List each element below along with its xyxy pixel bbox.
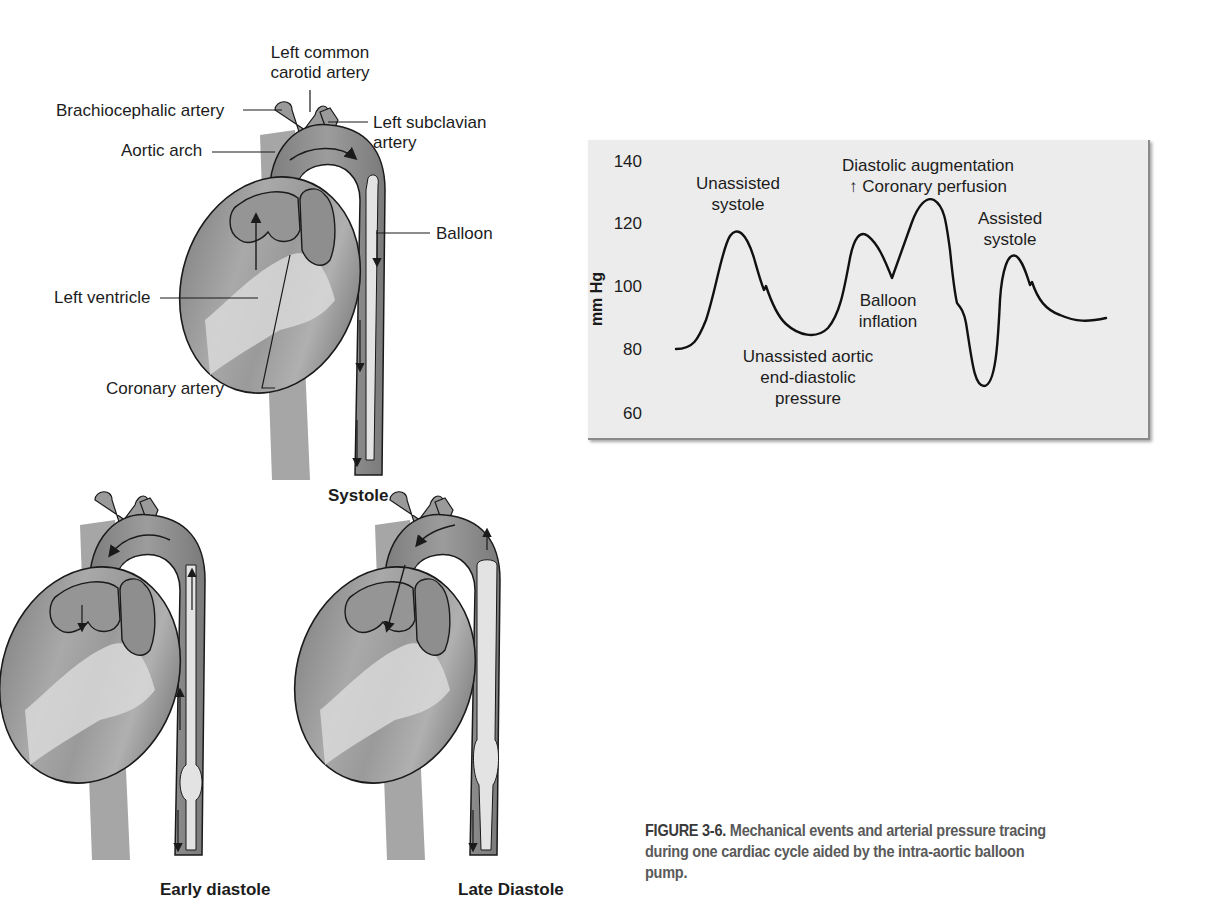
label-line: carotid artery [255, 63, 385, 83]
label-left-common-carotid: Left common carotid artery [255, 43, 385, 83]
early-diastole-heart-illustration [0, 492, 208, 860]
iabp-illustrations [0, 0, 1208, 917]
phase-label-early-diastole: Early diastole [160, 880, 271, 900]
annotation-line: inflation [848, 311, 928, 332]
annotation-line: Assisted [970, 208, 1050, 229]
label-balloon: Balloon [436, 224, 493, 244]
annotation-unassisted-aedp: Unassisted aortic end-diastolic pressure [733, 346, 883, 409]
annotation-line: systole [970, 229, 1050, 250]
label-line: Left common [255, 43, 385, 63]
figure-number: FIGURE 3-6. [645, 821, 726, 839]
label-brachiocephalic: Brachiocephalic artery [56, 101, 224, 121]
label-left-subclavian: Left subclavian artery [373, 113, 486, 153]
annotation-line: Unassisted [688, 173, 788, 194]
annotation-line: Diastolic augmentation [833, 155, 1023, 176]
phase-label-late-diastole: Late Diastole [458, 880, 564, 900]
annotation-line: ↑ Coronary perfusion [833, 176, 1023, 197]
annotation-line: systole [688, 194, 788, 215]
annotation-balloon-inflation: Balloon inflation [848, 290, 928, 332]
annotation-diastolic-augmentation: Diastolic augmentation ↑ Coronary perfus… [833, 155, 1023, 197]
pressure-tracing-chart: mm Hg 140 120 100 80 60 Unassisted systo… [588, 140, 1150, 440]
label-aortic-arch: Aortic arch [121, 141, 202, 161]
annotation-unassisted-systole: Unassisted systole [688, 173, 788, 215]
annotation-line: Balloon [848, 290, 928, 311]
label-coronary-artery: Coronary artery [106, 379, 224, 399]
annotation-line: pressure [733, 388, 883, 409]
label-line: artery [373, 133, 486, 153]
figure-caption: FIGURE 3-6. Mechanical events and arteri… [645, 820, 1059, 883]
label-left-ventricle: Left ventricle [54, 288, 150, 308]
label-line: Left subclavian [373, 113, 486, 133]
annotation-line: end-diastolic [733, 367, 883, 388]
late-diastole-heart-illustration [267, 492, 502, 860]
annotation-line: Unassisted aortic [733, 346, 883, 367]
phase-label-systole: Systole [328, 486, 388, 506]
annotation-assisted-systole: Assisted systole [970, 208, 1050, 250]
